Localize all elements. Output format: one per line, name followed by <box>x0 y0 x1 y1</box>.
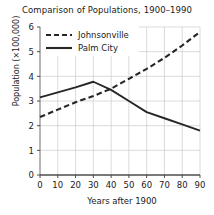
x-tick-label: 20 <box>70 180 81 190</box>
chart-legend: JohnsonvillePalm City <box>41 26 139 56</box>
y-axis-ticks: 0123456 <box>29 22 40 180</box>
x-tick-label: 80 <box>177 180 188 190</box>
y-tick-label: 3 <box>29 96 34 106</box>
y-tick-label: 5 <box>29 47 34 57</box>
y-tick-label: 0 <box>29 170 34 180</box>
y-tick-label: 2 <box>29 121 34 131</box>
x-axis-ticks: 0102030405060708090 <box>37 175 205 190</box>
x-tick-label: 90 <box>195 180 206 190</box>
y-tick-label: 6 <box>29 22 34 32</box>
y-tick-label: 1 <box>29 146 34 156</box>
x-tick-label: 40 <box>106 180 117 190</box>
x-tick-label: 0 <box>37 180 42 190</box>
legend-label-johnsonville: Johnsonville <box>77 30 129 40</box>
x-tick-label: 10 <box>52 180 63 190</box>
plot-area: 0123456 0102030405060708090 Johnsonville… <box>0 0 214 215</box>
x-tick-label: 30 <box>88 180 99 190</box>
population-line-chart: Comparison of Populations, 1900–1990 Pop… <box>0 0 214 215</box>
x-tick-label: 60 <box>141 180 152 190</box>
x-tick-label: 70 <box>159 180 170 190</box>
legend-label-palm-city: Palm City <box>78 43 118 53</box>
x-tick-label: 50 <box>123 180 134 190</box>
y-tick-label: 4 <box>29 72 34 82</box>
